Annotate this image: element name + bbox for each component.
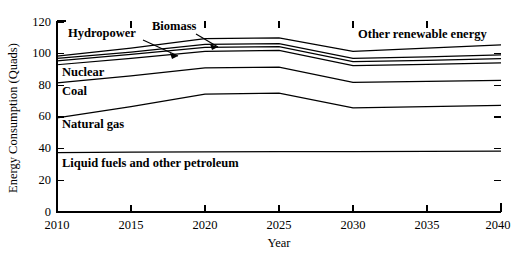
- series-label-liquid-fuels: Liquid fuels and other petroleum: [62, 156, 239, 170]
- x-tick-label: 2030: [341, 218, 366, 232]
- y-tick-label: 0: [45, 205, 51, 219]
- series-label-natural-gas: Natural gas: [62, 117, 124, 131]
- y-tick-label: 20: [39, 173, 52, 187]
- chart-figure: Energy Consumption (Quads) 120 100 80 60…: [0, 0, 526, 254]
- x-tick-label: 2020: [193, 218, 218, 232]
- y-tick-label: 80: [39, 78, 52, 92]
- x-axis-title: Year: [267, 236, 291, 250]
- x-tick-label: 2015: [119, 218, 144, 232]
- series-label-nuclear: Nuclear: [62, 65, 105, 79]
- y-tick-label: 40: [39, 141, 52, 155]
- x-tick-label: 2040: [486, 218, 511, 232]
- y-tick-label: 100: [32, 46, 51, 60]
- x-tick-label: 2010: [45, 218, 70, 232]
- y-tick-label: 60: [39, 109, 52, 123]
- y-axis-title: Energy Consumption (Quads): [6, 43, 20, 193]
- y-tick-label: 120: [32, 15, 51, 29]
- series-label-biomass: Biomass: [152, 19, 197, 33]
- series-label-other-renewable-energy: Other renewable energy: [358, 27, 487, 41]
- energy-consumption-line-chart: Energy Consumption (Quads) 120 100 80 60…: [0, 0, 526, 254]
- x-tick-label: 2025: [267, 218, 292, 232]
- x-tick-label: 2035: [415, 218, 440, 232]
- series-label-hydropower: Hydropower: [68, 26, 136, 40]
- series-label-coal: Coal: [62, 84, 88, 98]
